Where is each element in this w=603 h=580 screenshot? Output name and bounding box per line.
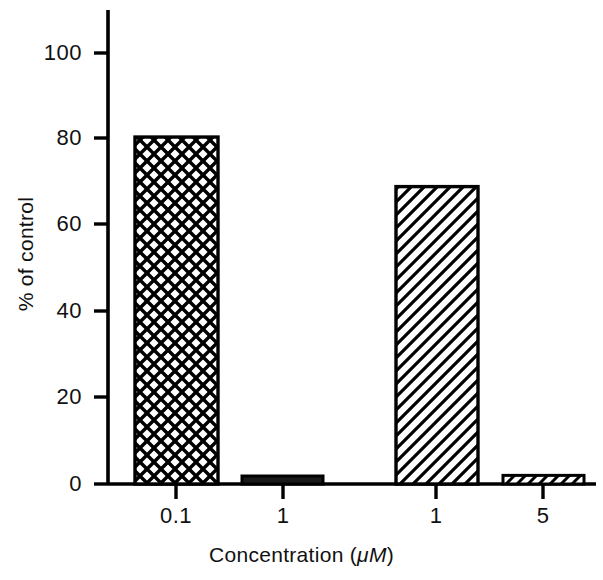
- chart-canvas: [0, 0, 603, 580]
- bar-series: [135, 137, 584, 484]
- x-tick-label-3: 5: [537, 503, 550, 529]
- bar-2: [396, 187, 478, 484]
- bar-1: [242, 476, 323, 484]
- y-axis-ticks: [94, 53, 108, 484]
- chart-figure: 100 80 60 40 20 0 0.1 1 1 5 Concentratio…: [0, 0, 603, 580]
- bar-0: [135, 137, 218, 484]
- x-tick-label-2: 1: [430, 503, 443, 529]
- bar-3: [503, 475, 584, 484]
- y-tick-label-20: 20: [8, 384, 82, 410]
- x-tick-label-0: 0.1: [160, 503, 192, 529]
- x-tick-label-1: 1: [277, 503, 290, 529]
- x-axis-ticks: [176, 484, 543, 499]
- y-axis-title: % of control: [14, 184, 38, 324]
- x-axis-title-main: Concentration (: [209, 543, 357, 566]
- y-tick-label-100: 100: [8, 40, 82, 66]
- y-tick-label-0: 0: [8, 471, 82, 497]
- x-axis-title-unit: μM: [357, 543, 387, 566]
- x-axis-title-tail: ): [387, 543, 394, 566]
- y-tick-label-80: 80: [8, 125, 82, 151]
- x-axis-title: Concentration (μM): [0, 543, 603, 567]
